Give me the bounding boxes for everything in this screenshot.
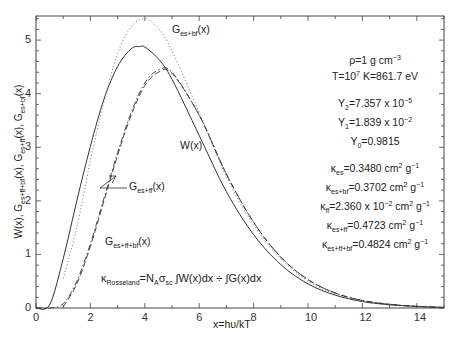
kappa-es: κes=0.3480 cm2 g−1 — [300, 162, 450, 175]
rho: ρ=1 g cm−3 — [300, 54, 450, 67]
y-tick-label: 4 — [25, 87, 31, 99]
x-tick-label: 12 — [359, 311, 371, 323]
x-tick-label: 8 — [251, 311, 257, 323]
y1: Y1=1.839 x 10−2 — [300, 116, 450, 129]
y2: Y2=7.357 x 10−5 — [300, 97, 450, 110]
y-axis-label: W(x), Ges+ff+bf(x), Ges+ff(x), Ges+bf(x) — [13, 52, 24, 272]
y0: Y0=0.9815 — [300, 135, 450, 148]
kappa-es-ff-bf: κes+ff+bf=0.4824 cm2 g−1 — [300, 238, 450, 251]
y-tick-label: 5 — [25, 33, 31, 45]
x-axis-label: x=hυ/kT — [213, 318, 251, 330]
x-tick-label: 0 — [33, 311, 39, 323]
kappa-ff: κff=2.360 x 10−2 cm2 g−1 — [300, 200, 450, 213]
y-tick-label: 2 — [25, 194, 31, 206]
label-g-es-ff-bf: Ges+ff+bf(x) — [105, 235, 151, 247]
rosseland-formula: κRosseland=NAσsc ∫W(x)dx ÷ ∫G(x)dx — [101, 272, 261, 284]
label-w: W(x) — [180, 139, 202, 151]
x-tick-label: 10 — [305, 311, 317, 323]
y-tick-label: 0 — [25, 301, 31, 313]
arrow-icon — [100, 176, 124, 188]
kappa-es-bf: κes+bf=0.3702 cm2 g−1 — [300, 181, 450, 194]
y-tick-label: 3 — [25, 140, 31, 152]
x-tick-label: 14 — [414, 311, 426, 323]
y-tick-label: 1 — [25, 247, 31, 259]
temperature: T=107 K=861.7 eV — [300, 70, 450, 83]
x-tick-label: 2 — [87, 311, 93, 323]
label-g-es-ff: Ges+ff(x) — [129, 180, 165, 192]
kappa-es-ff: κes+ff=0.4723 cm2 g−1 — [300, 219, 450, 232]
parameters-block: ρ=1 g cm−3 T=107 K=861.7 eV Y2=7.357 x 1… — [300, 54, 450, 251]
x-tick-label: 6 — [196, 311, 202, 323]
x-tick-label: 4 — [142, 311, 148, 323]
label-g-es-bf: Ges+bf(x) — [172, 23, 210, 35]
